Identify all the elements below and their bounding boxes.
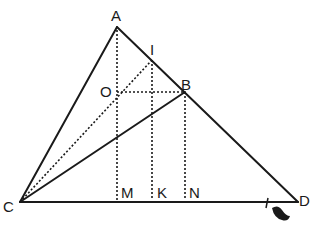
- segment-CA: [20, 27, 117, 202]
- label-K: K: [157, 185, 167, 200]
- label-A: A: [111, 8, 121, 23]
- ink-blot: [272, 206, 290, 220]
- tick-mark: [266, 198, 268, 208]
- label-I: I: [150, 42, 154, 57]
- label-B: B: [181, 77, 191, 92]
- segment-AD: [117, 27, 298, 202]
- label-C: C: [3, 199, 14, 214]
- geometry-diagram: A I B O C D M K N: [0, 0, 317, 229]
- label-M: M: [121, 185, 134, 200]
- label-O: O: [100, 84, 112, 99]
- label-N: N: [189, 185, 200, 200]
- label-D: D: [299, 193, 310, 208]
